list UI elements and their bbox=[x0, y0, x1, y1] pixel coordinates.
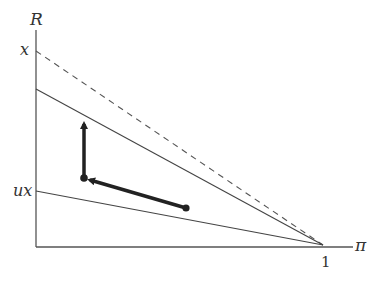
x-tick-1-label: 1 bbox=[321, 253, 331, 271]
lower-solid-line-ux bbox=[36, 191, 323, 245]
corner-point bbox=[80, 174, 88, 182]
y-axis-label: R bbox=[29, 9, 43, 29]
y-tick-x-label: x bbox=[20, 40, 29, 59]
start-point bbox=[182, 204, 189, 211]
upper-solid-line bbox=[36, 89, 323, 245]
dashed-line-x bbox=[36, 51, 323, 245]
y-tick-ux-label: ux bbox=[13, 181, 32, 200]
x-axis-label: π bbox=[354, 235, 367, 255]
diagram-canvas: R x ux 1 π bbox=[0, 0, 385, 283]
